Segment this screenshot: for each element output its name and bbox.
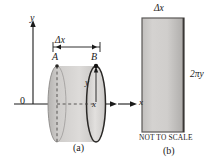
abscissa-label-x: x [92, 100, 96, 109]
panel-b-caption: (b) [163, 146, 175, 156]
point-b-label: B [91, 52, 97, 62]
figure-container: y 0 Δx A B y x (a) [0, 0, 221, 167]
panel-a-caption: (a) [73, 143, 84, 153]
x-axis-stub [118, 101, 137, 106]
panel-b: Δx 2πy x NOT TO SCALE (b) [118, 0, 221, 167]
point-a-marker [55, 64, 59, 68]
y-axis-label: y [30, 13, 34, 23]
y-axis [30, 20, 35, 104]
panel-a: y 0 Δx A B y x (a) [0, 0, 118, 167]
radius-label-y: y [85, 78, 89, 87]
x-axis-label-b: x [139, 98, 143, 107]
width-label-delta-x: Δx [154, 4, 164, 14]
origin-label: 0 [20, 96, 25, 106]
panel-a-graphic [0, 0, 118, 167]
height-label-2piy: 2πy [190, 70, 204, 80]
delta-x-label: Δx [55, 36, 65, 46]
unrolled-rectangle [142, 18, 184, 132]
not-to-scale-note: NOT TO SCALE [139, 134, 193, 141]
point-a-label: A [52, 52, 58, 62]
